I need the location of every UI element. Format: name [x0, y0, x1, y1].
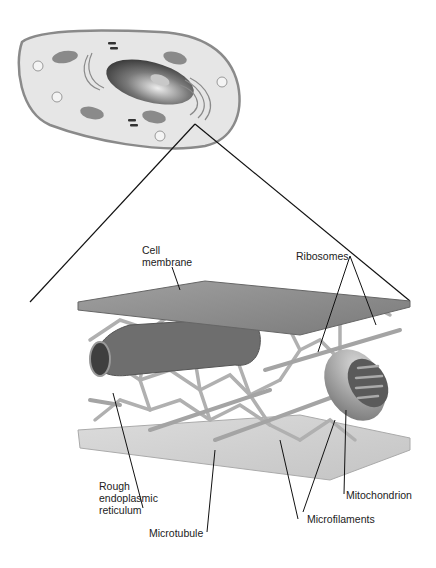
diagram-artwork: [0, 0, 436, 568]
label-rough-er: Rough endoplasmic reticulum: [99, 480, 158, 516]
label-ribosomes: Ribosomes: [296, 250, 349, 262]
label-mitochondrion: Mitochondrion: [346, 489, 412, 501]
label-cell-membrane: Cell membrane: [142, 244, 192, 268]
label-microtubule: Microtubule: [149, 527, 203, 539]
cytoskeleton-diagram: Cell membrane Ribosomes Rough endoplasmi…: [0, 0, 436, 568]
zoom-leader-lines: [30, 124, 410, 302]
cell-overview: [19, 31, 240, 149]
lower-membrane: [78, 415, 410, 480]
label-microfilaments: Microfilaments: [307, 513, 375, 525]
